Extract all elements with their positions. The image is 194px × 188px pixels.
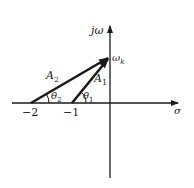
theta1-label: θ1 [83,90,94,104]
vector-a1-label: A1 [93,72,107,87]
sigma-axis-label: σ [174,105,182,116]
vector-a2-label: A2 [45,69,59,84]
point-neg1-label: −1 [63,106,79,119]
angle-arc-theta2 [47,94,50,103]
omega-k-label: ωk [112,52,124,66]
point-neg2-label: −2 [22,106,38,119]
theta2-label: θ2 [51,90,62,104]
jomega-axis-label: jω [88,24,103,37]
s-plane-diagram: jω σ ωk A2 A1 θ2 θ1 −2 −1 [0,0,194,188]
